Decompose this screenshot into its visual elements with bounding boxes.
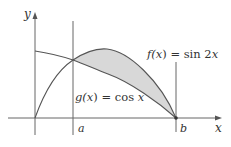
x-axis-label: x [215, 121, 222, 135]
area-between-curves-diagram: y x a b f(x) = sin 2x g(x) = cos x [0, 0, 231, 147]
y-axis-arrow-icon [33, 12, 38, 19]
curve-label-f: f(x) = sin 2x [146, 47, 219, 61]
intersection-point-b [174, 116, 178, 120]
bound-label-b: b [180, 122, 187, 135]
bound-label-a: a [78, 122, 85, 135]
curve-label-g: g(x) = cos x [75, 90, 145, 104]
y-axis-label: y [23, 7, 31, 21]
x-axis-arrow-icon [215, 116, 222, 121]
